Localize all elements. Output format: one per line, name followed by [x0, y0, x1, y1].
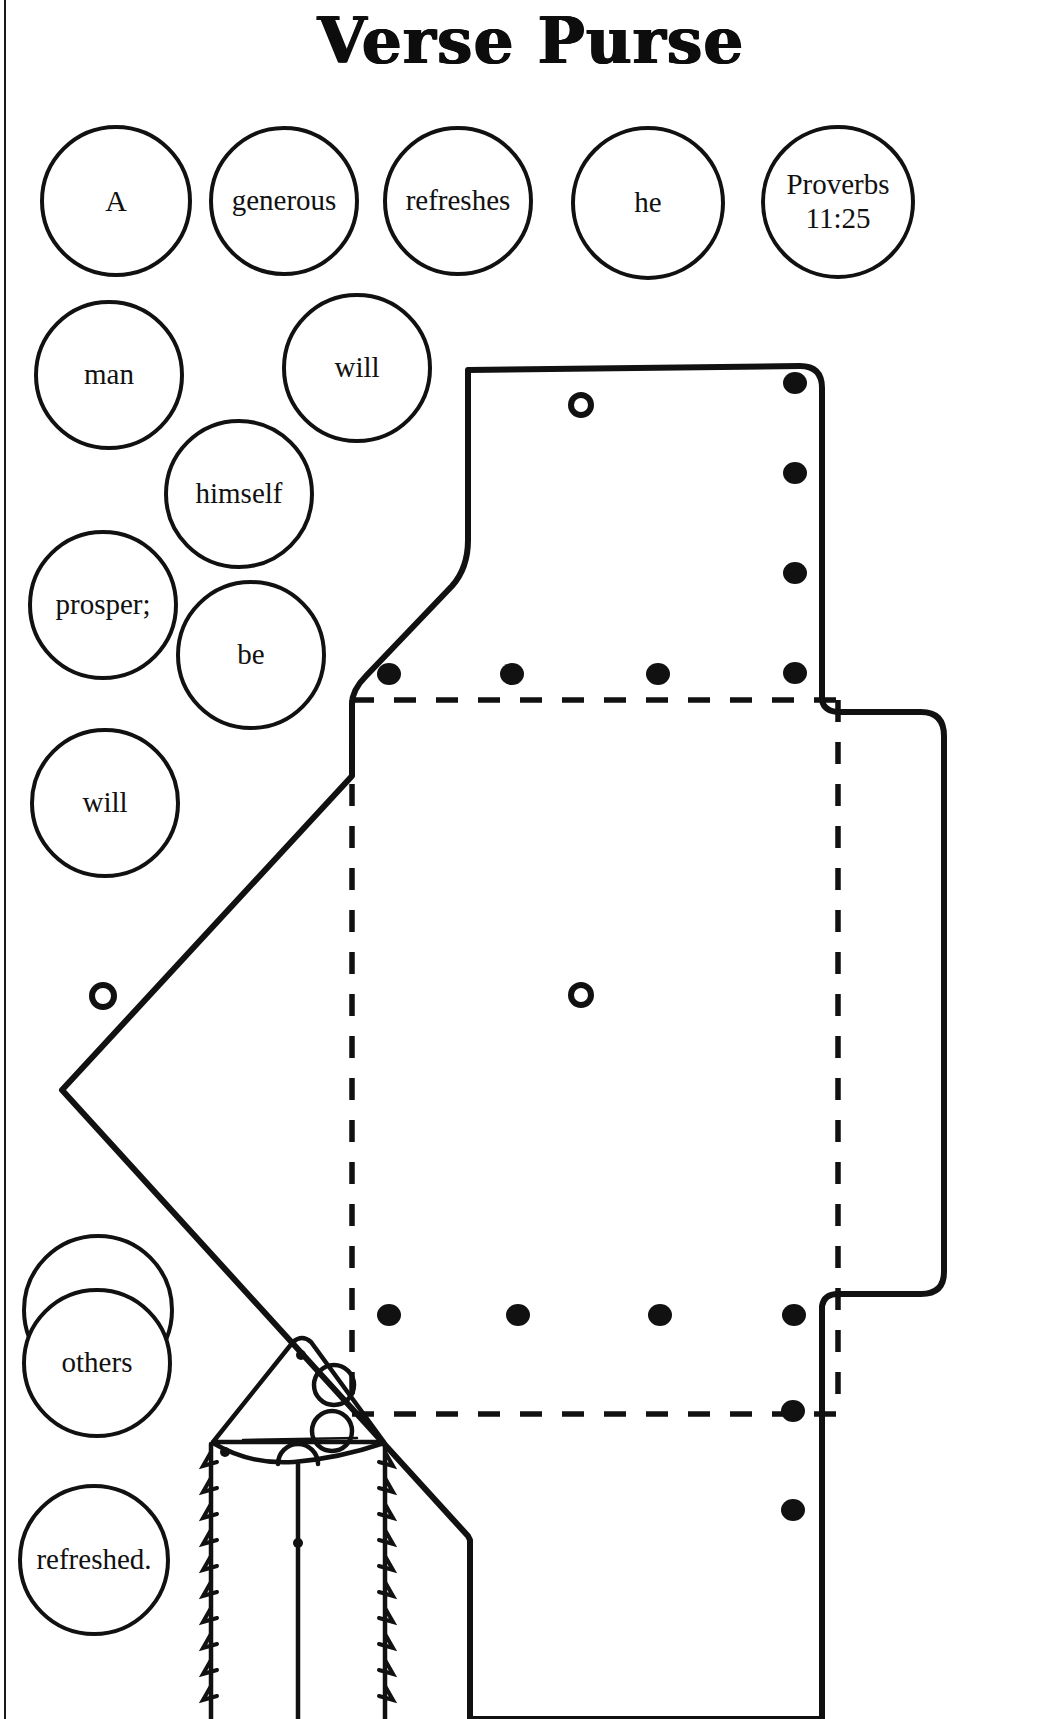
word-circle-proverbs-reference[interactable]: Proverbs 11:25	[761, 125, 915, 279]
thumb-hole-dot	[293, 1538, 303, 1548]
thumb-button-lower	[312, 1411, 352, 1451]
thumb-hole-dot	[220, 1447, 230, 1457]
word-circle-label: man	[78, 358, 140, 392]
word-circle-label: refreshed.	[30, 1543, 157, 1577]
word-circle-label: A	[99, 184, 133, 219]
word-circle-will-1[interactable]: will	[282, 293, 432, 443]
word-circle-refreshes[interactable]: refreshes	[383, 126, 533, 276]
word-circle-will-2[interactable]: will	[30, 728, 180, 878]
word-circle-a[interactable]: A	[40, 125, 192, 277]
word-circle-label: Proverbs 11:25	[780, 168, 895, 235]
word-circle-label: prosper;	[49, 588, 156, 622]
word-circle-label: will	[76, 786, 133, 820]
word-circle-label: he	[628, 186, 667, 220]
word-circle-generous[interactable]: generous	[209, 126, 359, 276]
word-circle-refreshed[interactable]: refreshed.	[18, 1484, 170, 1636]
thumb-hole-dot	[296, 1350, 306, 1360]
thumb-flap-fold	[243, 1438, 357, 1440]
word-circle-label: others	[56, 1346, 139, 1380]
word-circle-he[interactable]: he	[571, 126, 725, 280]
worksheet-page: Verse Purse	[0, 0, 1062, 1719]
word-circle-label: will	[328, 351, 385, 385]
word-circle-be[interactable]: be	[176, 580, 326, 730]
word-circle-label: generous	[226, 184, 343, 218]
word-circle-himself[interactable]: himself	[164, 419, 314, 569]
word-circle-prosper[interactable]: prosper;	[28, 530, 178, 680]
word-circle-label: himself	[190, 477, 289, 511]
word-circle-label: refreshes	[400, 184, 517, 218]
word-circle-man[interactable]: man	[34, 300, 184, 450]
word-circle-label: be	[231, 638, 270, 672]
word-circle-others[interactable]: others	[22, 1288, 172, 1438]
